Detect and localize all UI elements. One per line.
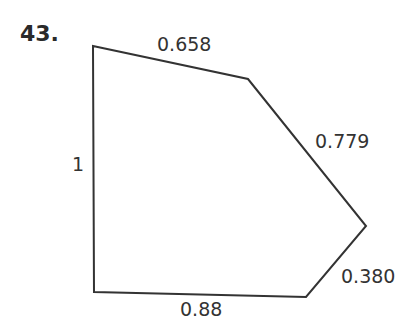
side-label-top: 0.658 xyxy=(157,33,211,55)
side-label-lower-right: 0.380 xyxy=(341,265,395,287)
side-label-upper-right: 0.779 xyxy=(315,130,369,152)
side-label-bottom: 0.88 xyxy=(180,298,222,320)
side-label-left: 1 xyxy=(72,153,84,175)
